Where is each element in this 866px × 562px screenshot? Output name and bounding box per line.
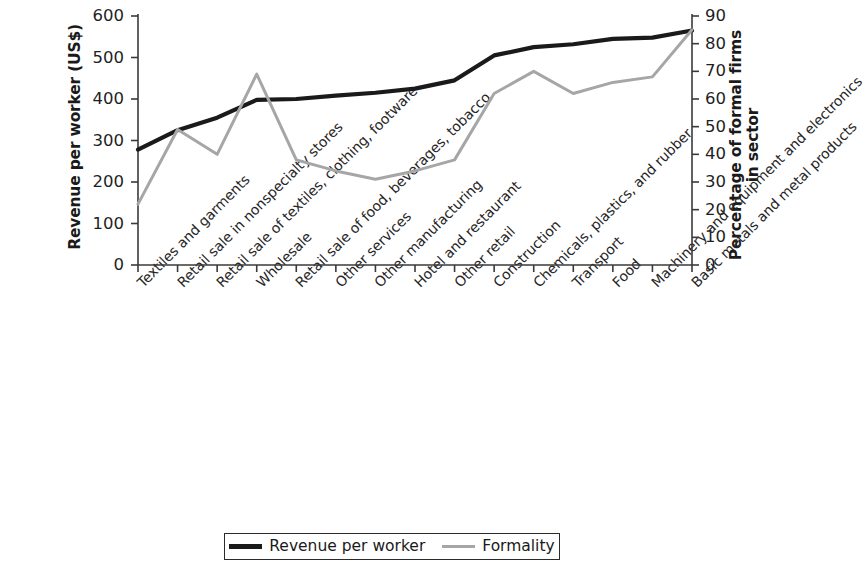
axes-group [131, 14, 699, 272]
legend-item: Revenue per worker [229, 539, 425, 555]
legend-swatch-icon [229, 544, 262, 549]
legend-item: Formality [442, 539, 554, 555]
series-group [138, 30, 692, 204]
chart-legend: Revenue per workerFormality [224, 533, 560, 560]
series-line-revenue-per-worker [138, 31, 692, 150]
legend-swatch-icon [442, 545, 475, 548]
legend-label: Revenue per worker [269, 539, 425, 555]
legend-label: Formality [482, 539, 554, 555]
